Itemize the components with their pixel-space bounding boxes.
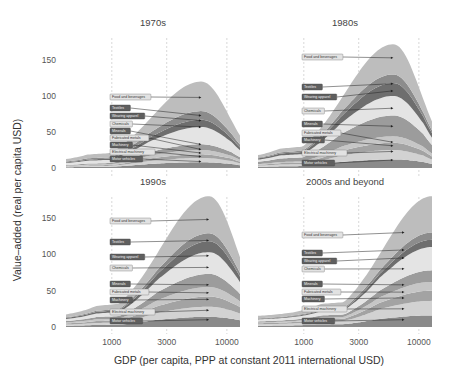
x-tick-label: 10000 bbox=[407, 337, 431, 347]
x-tick-label: 1000 bbox=[294, 337, 313, 347]
svg-text:Textiles: Textiles bbox=[304, 251, 316, 255]
svg-text:Food and beverages: Food and beverages bbox=[304, 55, 337, 59]
facet-panel-2000s-and-beyond: 2000s and beyond1000300010000Food and be… bbox=[258, 176, 432, 347]
y-tick-label: 100 bbox=[42, 91, 56, 101]
svg-text:Machinery: Machinery bbox=[304, 138, 321, 142]
svg-text:Chemicals: Chemicals bbox=[304, 109, 321, 113]
svg-text:Food and beverages: Food and beverages bbox=[304, 233, 337, 237]
facet-title: 1980s bbox=[332, 17, 358, 28]
svg-text:Minerals: Minerals bbox=[304, 122, 318, 126]
y-tick-label: 50 bbox=[47, 127, 57, 137]
svg-text:Chemicals: Chemicals bbox=[112, 266, 129, 270]
y-tick-label: 50 bbox=[47, 286, 57, 296]
x-tick-label: 3000 bbox=[349, 337, 368, 347]
svg-text:Textiles: Textiles bbox=[112, 106, 124, 110]
x-tick-label: 1000 bbox=[102, 337, 121, 347]
svg-text:Food and beverages: Food and beverages bbox=[112, 219, 145, 223]
svg-text:Wearing apparel: Wearing apparel bbox=[304, 259, 331, 263]
svg-text:Wearing apparel: Wearing apparel bbox=[112, 255, 139, 259]
svg-text:Machinery: Machinery bbox=[304, 297, 321, 301]
svg-text:Fabricated metals: Fabricated metals bbox=[112, 136, 141, 140]
faceted-stacked-area-chart: 1970s050100150Food and beveragesTextiles… bbox=[0, 0, 455, 378]
y-tick-label: 100 bbox=[42, 249, 56, 259]
svg-text:Electrical machinery: Electrical machinery bbox=[304, 151, 336, 155]
svg-text:Motor vehicles: Motor vehicles bbox=[112, 157, 135, 161]
svg-text:Chemicals: Chemicals bbox=[112, 122, 129, 126]
facet-title: 1990s bbox=[140, 176, 166, 187]
x-tick-label: 10000 bbox=[215, 337, 239, 347]
x-tick-label: 3000 bbox=[157, 337, 176, 347]
x-axis-title: GDP (per capita, PPP at constant 2011 in… bbox=[114, 354, 384, 366]
svg-text:Fabricated metals: Fabricated metals bbox=[304, 290, 333, 294]
y-tick-label: 0 bbox=[51, 163, 56, 173]
svg-text:Motor vehicles: Motor vehicles bbox=[304, 161, 327, 165]
y-tick-label: 150 bbox=[42, 213, 56, 223]
svg-text:Textiles: Textiles bbox=[112, 240, 124, 244]
facet-panel-1970s: 1970s050100150Food and beveragesTextiles… bbox=[42, 17, 240, 176]
y-axis-title: Value–added (real per capita USD) bbox=[11, 119, 23, 282]
y-tick-label: 0 bbox=[51, 322, 56, 332]
svg-text:Chemicals: Chemicals bbox=[304, 267, 321, 271]
svg-text:Fabricated metals: Fabricated metals bbox=[304, 131, 333, 135]
svg-text:Minerals: Minerals bbox=[112, 282, 126, 286]
y-tick-label: 150 bbox=[42, 55, 56, 65]
svg-text:Motor vehicles: Motor vehicles bbox=[112, 319, 135, 323]
svg-text:Motor vehicles: Motor vehicles bbox=[304, 319, 327, 323]
svg-text:Food and beverages: Food and beverages bbox=[112, 95, 145, 99]
svg-text:Minerals: Minerals bbox=[304, 282, 318, 286]
svg-text:Textiles: Textiles bbox=[304, 85, 316, 89]
svg-text:Machinery: Machinery bbox=[112, 298, 129, 302]
svg-text:Wearing apparel: Wearing apparel bbox=[304, 95, 331, 99]
facet-panel-1980s: 1980sFood and beveragesTextilesWearing a… bbox=[258, 17, 432, 176]
svg-text:Electrical machinery: Electrical machinery bbox=[112, 150, 144, 154]
svg-text:Electrical machinery: Electrical machinery bbox=[304, 307, 336, 311]
svg-text:Electrical machinery: Electrical machinery bbox=[112, 310, 144, 314]
svg-text:Minerals: Minerals bbox=[112, 129, 126, 133]
svg-text:Wearing apparel: Wearing apparel bbox=[112, 114, 139, 118]
series-label-food-and-beverages: Food and beverages bbox=[302, 231, 405, 238]
facet-title: 1970s bbox=[140, 17, 166, 28]
svg-text:Fabricated metals: Fabricated metals bbox=[112, 290, 141, 294]
facet-panel-1990s: 1990s0501001501000300010000Food and beve… bbox=[42, 176, 240, 347]
svg-text:Machinery: Machinery bbox=[112, 143, 129, 147]
facet-title: 2000s and beyond bbox=[306, 176, 384, 187]
